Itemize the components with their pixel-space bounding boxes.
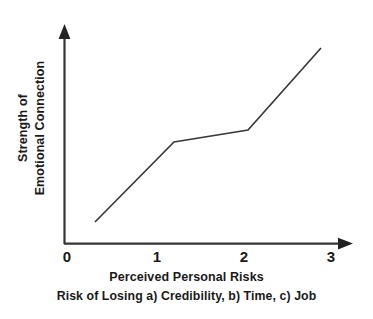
y-axis-label-text: Strength of Emotional Connection <box>15 61 49 196</box>
chart-figure: 0 1 2 3 Strength of Emotional Connection… <box>0 0 373 319</box>
x-axis-arrow-icon <box>338 238 353 250</box>
x-tick-label-3: 3 <box>327 248 335 265</box>
x-tick-label-0: 0 <box>63 248 71 265</box>
data-series-line <box>95 48 321 222</box>
x-tick-label-1: 1 <box>153 248 161 265</box>
x-tick-label-2: 2 <box>240 248 248 265</box>
x-axis-caption-line-2: Risk of Losing a) Credibility, b) Time, … <box>0 287 373 306</box>
y-axis-label-line-1: Strength of <box>15 61 32 196</box>
y-axis-label-line-2: Emotional Connection <box>32 61 49 196</box>
x-axis-caption: Perceived Personal Risks Risk of Losing … <box>0 268 373 306</box>
x-axis-caption-line-1: Perceived Personal Risks <box>0 268 373 287</box>
y-axis-label: Strength of Emotional Connection <box>2 28 62 228</box>
